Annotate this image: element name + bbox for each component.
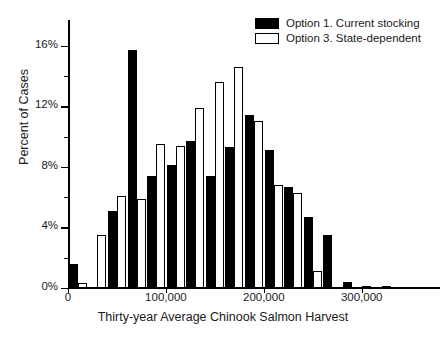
chart-bar: [225, 147, 234, 288]
chart-bar: [195, 108, 204, 288]
chart-bar: [274, 185, 283, 288]
x-axis-tick-label: 300,000: [341, 292, 383, 304]
chart-bar: [343, 282, 352, 288]
chart-bar: [128, 50, 137, 288]
chart-bar: [176, 146, 185, 288]
y-axis-tick-label: 4%: [41, 220, 58, 232]
legend-item-option-3: Option 3. State-dependent: [255, 31, 421, 46]
x-axis-title: Thirty-year Average Chinook Salmon Harve…: [0, 310, 446, 324]
legend-swatch-filled-black-square: [255, 18, 279, 29]
y-axis-tick-major: [61, 288, 68, 289]
chart-figure: 0%4%8%12%16% 0100,000200,000300,000 Perc…: [0, 0, 446, 344]
y-axis-tick-label: 8%: [41, 160, 58, 172]
plot-area: [68, 20, 440, 288]
chart-bar: [69, 264, 78, 288]
chart-bar: [362, 286, 371, 288]
chart-bar: [265, 150, 274, 288]
chart-bar: [254, 121, 263, 288]
x-axis-tick-label: 200,000: [243, 292, 285, 304]
legend-item-option-1: Option 1. Current stocking: [255, 16, 421, 31]
chart-bar: [284, 187, 293, 288]
chart-bar: [108, 211, 117, 288]
chart-bar: [137, 199, 146, 288]
y-axis-tick-major: [61, 167, 68, 168]
chart-bar: [234, 67, 243, 288]
chart-bar: [215, 82, 224, 288]
chart-bar: [206, 176, 215, 288]
chart-legend: Option 1. Current stocking Option 3. Sta…: [255, 16, 421, 46]
chart-bar: [156, 144, 165, 288]
chart-bar: [313, 271, 322, 288]
y-axis-title: Percent of Cases: [17, 17, 31, 217]
chart-bar: [117, 196, 126, 288]
y-axis-tick-label: 12%: [35, 99, 58, 111]
legend-label-option-1: Option 1. Current stocking: [286, 18, 420, 30]
y-axis-tick-major: [61, 106, 68, 107]
chart-bar: [304, 217, 313, 288]
chart-bar: [167, 165, 176, 288]
x-axis-tick-label: 0: [65, 292, 71, 304]
chart-bar: [147, 176, 156, 288]
chart-bar: [78, 283, 87, 288]
chart-bar: [97, 235, 106, 288]
x-axis-tick-label: 100,000: [145, 292, 187, 304]
y-axis-tick-major: [61, 227, 68, 228]
y-axis-tick-major: [61, 46, 68, 47]
chart-bar: [293, 193, 302, 288]
chart-bar: [186, 141, 195, 288]
y-axis-tick-label: 0%: [41, 281, 58, 293]
chart-bar: [382, 286, 391, 288]
legend-label-option-3: Option 3. State-dependent: [286, 33, 421, 45]
legend-swatch-open-white-square: [255, 33, 279, 44]
chart-bar: [323, 235, 332, 288]
chart-bar: [245, 115, 254, 288]
y-axis-tick-label: 16%: [35, 39, 58, 51]
